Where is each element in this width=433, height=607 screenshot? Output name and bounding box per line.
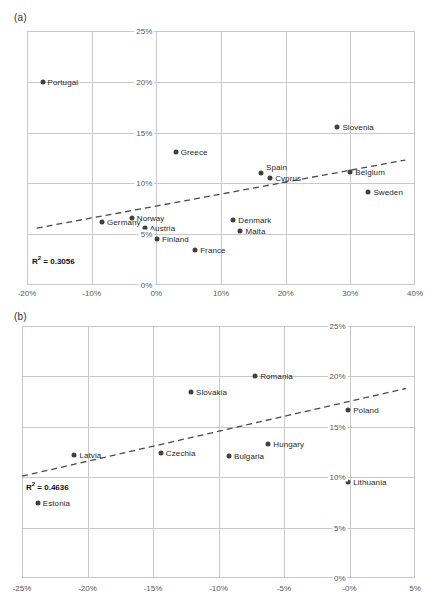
x-axis-tick-label: -25% <box>13 584 32 593</box>
data-point-label-spain: Spain <box>266 163 287 172</box>
x-axis-tick-label: 10% <box>213 289 229 298</box>
data-point-cyprus <box>268 176 273 181</box>
data-point-label-slovakia: Slovakia <box>196 387 227 396</box>
gridline-vertical <box>284 326 285 578</box>
gridline-vertical <box>92 31 93 285</box>
data-point-sweden <box>366 189 371 194</box>
y-axis-tick-label: 10% <box>327 473 347 482</box>
y-axis-tick-label: 5% <box>332 523 348 532</box>
data-point-label-czechia: Czechia <box>166 449 196 458</box>
data-point-label-greece: Greece <box>181 147 208 156</box>
data-point-label-latvia: Latvia <box>79 451 101 460</box>
x-axis-tick-label: 20% <box>278 289 294 298</box>
y-axis-tick-label: 20% <box>327 372 347 381</box>
y-axis-tick-label: 25% <box>327 322 347 331</box>
y-axis-tick-label: 20% <box>134 77 154 86</box>
data-point-label-finland: Finland <box>162 235 189 244</box>
data-point-bulgaria <box>226 454 231 459</box>
data-point-label-bulgaria: Bulgaria <box>234 452 264 461</box>
data-point-label-france: France <box>200 246 226 255</box>
scatter-plot-a: PortugalGreeceSloveniaSpainCyprusBelgium… <box>27 31 415 285</box>
data-point-label-germany: Germany <box>107 218 141 227</box>
data-point-slovakia <box>188 389 193 394</box>
y-axis-tick-label: 15% <box>134 128 154 137</box>
data-point-latvia <box>72 453 77 458</box>
figure-panel-b: (b) RomaniaSlovakiaPolandHungaryCzechiaB… <box>0 303 433 607</box>
data-point-hungary <box>266 441 271 446</box>
data-point-france <box>193 248 198 253</box>
data-point-malta <box>238 229 243 234</box>
r-squared-annotation-b: R2 = 0.4636 <box>26 481 69 492</box>
data-point-germany <box>100 220 105 225</box>
data-point-label-denmark: Denmark <box>238 215 271 224</box>
gridline-vertical <box>153 326 154 578</box>
data-point-label-estonia: Estonia <box>43 499 70 508</box>
data-point-estonia <box>35 501 40 506</box>
data-point-label-norway: Norway <box>137 213 165 222</box>
data-point-label-slovenia: Slovenia <box>342 122 374 131</box>
data-point-spain <box>259 171 264 176</box>
gridline-vertical <box>156 31 157 285</box>
x-axis-tick-label: -20% <box>18 289 37 298</box>
data-point-greece <box>173 149 178 154</box>
data-point-poland <box>346 407 351 412</box>
y-axis-tick-label: 25% <box>134 27 154 36</box>
data-point-portugal <box>40 79 45 84</box>
data-point-label-sweden: Sweden <box>373 187 403 196</box>
data-point-denmark <box>231 217 236 222</box>
x-axis-tick-label: -0% <box>342 584 356 593</box>
gridline-vertical <box>350 326 351 578</box>
r-squared-annotation-a: R2 = 0.3056 <box>32 255 75 266</box>
figure-panel-a: (a) PortugalGreeceSloveniaSpainCyprusBel… <box>0 0 433 303</box>
data-point-finland <box>154 237 159 242</box>
data-point-label-romania: Romania <box>260 372 293 381</box>
gridline-vertical <box>350 31 351 285</box>
gridline-vertical <box>286 31 287 285</box>
data-point-belgium <box>348 170 353 175</box>
x-axis-tick-label: 30% <box>342 289 358 298</box>
data-point-label-cyprus: Cyprus <box>275 174 301 183</box>
data-point-label-malta: Malta <box>245 227 265 236</box>
data-point-label-poland: Poland <box>353 405 379 414</box>
y-axis-tick-label: 5% <box>139 230 155 239</box>
data-point-slovenia <box>335 124 340 129</box>
y-axis-tick-label: 15% <box>327 422 347 431</box>
panel-label-a: (a) <box>14 12 27 23</box>
data-point-label-portugal: Portugal <box>48 77 79 86</box>
x-axis-tick-label: -20% <box>78 584 97 593</box>
x-axis-tick-label: -10% <box>209 584 228 593</box>
panel-label-b: (b) <box>14 311 27 322</box>
scatter-plot-b: RomaniaSlovakiaPolandHungaryCzechiaBulga… <box>22 326 415 578</box>
data-point-romania <box>253 374 258 379</box>
x-axis-tick-label: 5% <box>409 584 421 593</box>
x-axis-tick-label: -10% <box>82 289 101 298</box>
y-axis-tick-label: 0% <box>332 574 348 583</box>
data-point-label-belgium: Belgium <box>355 168 385 177</box>
data-point-label-lithuania: Lithuania <box>353 478 386 487</box>
data-point-czechia <box>158 451 163 456</box>
data-point-label-hungary: Hungary <box>273 439 304 448</box>
x-axis-tick-label: -15% <box>144 584 163 593</box>
y-axis-tick-label: 10% <box>134 179 154 188</box>
x-axis-tick-label: -5% <box>277 584 291 593</box>
x-axis-tick-label: 40% <box>407 289 423 298</box>
x-axis-tick-label: 0% <box>151 289 163 298</box>
gridline-vertical <box>219 326 220 578</box>
